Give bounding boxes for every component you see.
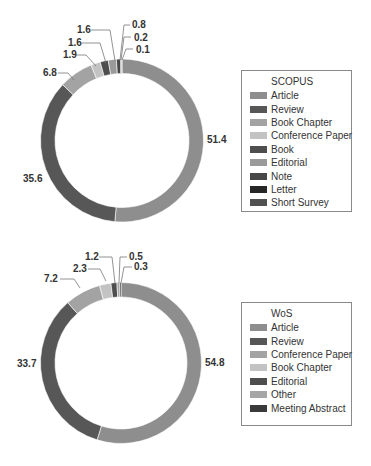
leader-line (82, 43, 106, 63)
donut-slice (115, 59, 204, 222)
wos-label-review: 33.7 (17, 359, 36, 369)
legend-label: Review (271, 104, 304, 115)
letter-swatch (250, 186, 267, 193)
legend-label: Conference Paper (271, 130, 352, 141)
scopus-legend: SCOPUS Article Review Book Chapter Confe… (241, 70, 352, 212)
wos-legend-title: WoS (250, 308, 347, 319)
leader-line (121, 267, 132, 283)
article-swatch (250, 92, 267, 99)
leader-line (119, 257, 127, 283)
review-swatch (250, 106, 267, 113)
wos-label-conference-paper: 7.2 (44, 274, 58, 284)
donut-slice (121, 59, 122, 74)
scopus-label-conference-paper: 1.9 (63, 50, 77, 60)
legend-item-conference-paper: Conference Paper (250, 129, 347, 142)
legend-label: Meeting Abstract (271, 403, 345, 414)
scopus-label-editorial: 1.6 (77, 25, 91, 35)
article-swatch (250, 324, 267, 331)
wos-label-meeting-abstract: 0.3 (134, 262, 148, 272)
leader-line (122, 49, 133, 60)
wos-legend: WoS Article Review Conference Paper Book… (241, 302, 352, 426)
donut-slice (40, 85, 116, 222)
legend-label: Review (271, 336, 304, 347)
legend-item-article: Article (250, 89, 347, 102)
legend-item-book: Book (250, 143, 347, 156)
conference-paper-swatch (250, 132, 267, 139)
scopus-label-article: 51.4 (207, 135, 226, 145)
leader-line (60, 279, 80, 288)
scopus-label-book-chapter: 6.8 (43, 68, 57, 78)
legend-label: Editorial (271, 157, 307, 168)
scopus-legend-title: SCOPUS (250, 76, 347, 87)
meeting-abstract-swatch (250, 405, 267, 412)
editorial-swatch (250, 159, 267, 166)
book-chapter-swatch (250, 119, 267, 126)
legend-item-editorial: Editorial (250, 156, 347, 169)
legend-label: Editorial (271, 376, 307, 387)
editorial-swatch (250, 378, 267, 385)
legend-item-other: Other (250, 388, 347, 401)
scopus-label-book: 1.6 (68, 38, 82, 48)
scopus-label-letter: 0.2 (134, 33, 148, 43)
legend-label: Short Survey (271, 197, 329, 208)
scopus-donut-chart: 51.4 35.6 6.8 1.9 1.6 1.6 0.8 0.2 0.1 SC… (0, 0, 371, 233)
review-swatch (250, 338, 267, 345)
legend-label: Book Chapter (271, 117, 332, 128)
legend-label: Book Chapter (271, 362, 332, 373)
legend-item-editorial: Editorial (250, 375, 347, 388)
short-survey-swatch (250, 199, 267, 206)
book-swatch (250, 146, 267, 153)
leader-line (88, 269, 106, 281)
legend-label: Letter (271, 184, 297, 195)
leader-line (99, 257, 115, 283)
legend-label: Other (271, 389, 296, 400)
legend-item-short-survey: Short Survey (250, 196, 347, 209)
legend-item-book-chapter: Book Chapter (250, 361, 347, 374)
scopus-label-note: 0.8 (132, 20, 146, 30)
donut-slice (41, 303, 102, 440)
legend-item-review: Review (250, 334, 347, 347)
other-swatch (250, 391, 267, 398)
wos-donut-chart: 54.8 33.7 7.2 2.3 1.2 0.5 0.3 WoS Articl… (0, 233, 371, 466)
leader-line (91, 30, 115, 61)
legend-item-article: Article (250, 321, 347, 334)
legend-item-conference-paper: Conference Paper (250, 348, 347, 361)
wos-label-book-chapter: 2.3 (73, 264, 87, 274)
wos-label-article: 54.8 (205, 358, 224, 368)
legend-item-note: Note (250, 169, 347, 182)
legend-label: Article (271, 90, 299, 101)
legend-label: Note (271, 171, 292, 182)
legend-label: Conference Paper (271, 349, 352, 360)
book-chapter-swatch (250, 364, 267, 371)
donut-slice (119, 283, 121, 298)
legend-label: Book (271, 144, 294, 155)
note-swatch (250, 173, 267, 180)
legend-item-meeting-abstract: Meeting Abstract (250, 401, 347, 414)
legend-item-book-chapter: Book Chapter (250, 116, 347, 129)
legend-item-letter: Letter (250, 183, 347, 196)
scopus-label-short-survey: 0.1 (136, 45, 150, 55)
donut-slice (116, 59, 120, 74)
wos-label-editorial: 1.2 (85, 252, 99, 262)
scopus-label-review: 35.6 (23, 174, 42, 184)
conference-paper-swatch (250, 351, 267, 358)
legend-item-review: Review (250, 102, 347, 115)
donut-slice (97, 283, 201, 444)
legend-label: Article (271, 322, 299, 333)
